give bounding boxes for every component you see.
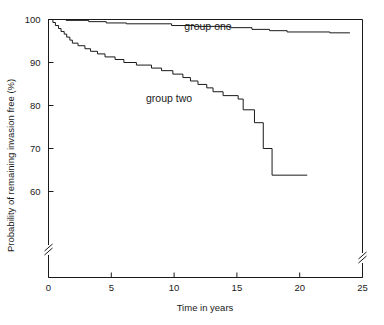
y-axis-label: Probability of remaining invasion free (… xyxy=(5,79,16,252)
x-tick-label: 5 xyxy=(109,282,114,293)
x-axis-label: Time in years xyxy=(177,302,234,313)
series-label-group-one: group one xyxy=(184,20,231,32)
x-tick-label: 0 xyxy=(46,282,51,293)
plot-frame xyxy=(49,20,363,278)
chart-figure: 10090807060 0510152025 Probability of re… xyxy=(0,0,384,325)
y-tick-label: 100 xyxy=(25,14,41,25)
y-tick-label: 60 xyxy=(30,186,41,197)
x-tick-label: 25 xyxy=(357,282,368,293)
axis-break-marks xyxy=(45,244,367,263)
y-tick-label: 70 xyxy=(30,143,41,154)
y-axis-break-mark xyxy=(45,244,53,255)
data-series xyxy=(49,20,350,176)
x-axis-ticks: 0510152025 xyxy=(46,273,368,293)
x-tick-label: 20 xyxy=(294,282,305,293)
x-tick-label: 10 xyxy=(169,282,180,293)
x-axis-break-mark xyxy=(359,252,367,263)
y-tick-label: 90 xyxy=(30,57,41,68)
y-tick-label: 80 xyxy=(30,100,41,111)
series-label-group-two: group two xyxy=(146,92,192,104)
y-axis-ticks: 10090807060 xyxy=(25,14,54,197)
survival-plot-svg: 10090807060 0510152025 Probability of re… xyxy=(0,0,384,325)
x-tick-label: 15 xyxy=(232,282,243,293)
